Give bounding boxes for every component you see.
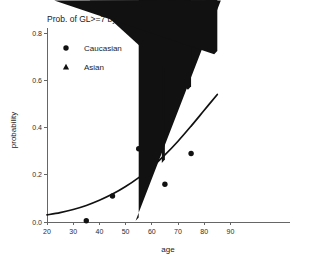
- y-axis-label: probability: [9, 112, 18, 148]
- data-point-caucasian: [110, 193, 115, 198]
- x-axis-label: age: [161, 245, 175, 254]
- x-tick-label: 40: [96, 228, 104, 235]
- y-tick-label: 0.2: [32, 171, 42, 178]
- x-axis-ticks: 2030405060708090: [43, 222, 234, 235]
- data-point-caucasian: [84, 218, 89, 223]
- legend-marker-triangle: [63, 64, 69, 70]
- legend-label: Asian: [84, 63, 104, 72]
- x-tick-label: 90: [227, 228, 235, 235]
- y-tick-label: 0.8: [32, 30, 42, 37]
- x-tick-label: 20: [43, 228, 51, 235]
- probability-by-age-chart: Prob. of GL>=7 by age 0.00.20.40.60.8 20…: [0, 0, 309, 260]
- y-tick-label: 0.0: [32, 219, 42, 226]
- x-tick-label: 80: [200, 228, 208, 235]
- y-tick-label: 0.4: [32, 124, 42, 131]
- y-axis-ticks: 0.00.20.40.60.8: [32, 30, 47, 226]
- data-points-group: [54, 0, 221, 223]
- x-tick-label: 50: [122, 228, 130, 235]
- y-tick-label: 0.6: [32, 77, 42, 84]
- data-point-caucasian: [188, 151, 193, 156]
- x-tick-label: 70: [174, 228, 182, 235]
- x-tick-label: 60: [148, 228, 156, 235]
- x-tick-label: 30: [69, 228, 77, 235]
- chart-container: Prob. of GL>=7 by age 0.00.20.40.60.8 20…: [0, 0, 309, 260]
- legend-label: Caucasian: [84, 44, 122, 53]
- data-point-asian: [54, 0, 217, 54]
- legend: CaucasianAsian: [63, 44, 122, 72]
- data-point-caucasian: [162, 182, 167, 187]
- legend-marker-circle: [63, 45, 68, 50]
